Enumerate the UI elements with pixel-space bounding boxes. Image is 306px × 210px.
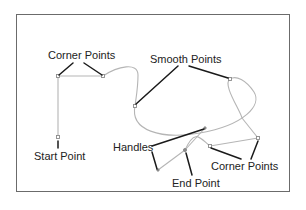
bezier-path-diagram <box>0 0 306 210</box>
label-corner-points-bottom: Corner Points <box>211 160 278 172</box>
path-curve-1 <box>103 67 138 106</box>
path-curve-loop <box>134 78 255 136</box>
path-segment-corner <box>210 138 258 146</box>
label-corner-points-top: Corner Points <box>48 49 115 61</box>
leader-corner-bottom-left <box>211 148 241 159</box>
leader-handles-lower <box>152 152 157 169</box>
path-curve-end <box>185 137 210 150</box>
smooth-point-anchor-1 <box>134 105 137 108</box>
leader-corner-bottom-right <box>251 141 258 159</box>
corner-point-anchor-4 <box>209 145 212 148</box>
leader-smooth-right <box>189 66 228 78</box>
leader-corner-top-left <box>59 63 73 75</box>
smooth-point-anchor-2 <box>229 78 232 81</box>
start-point-anchor <box>57 136 60 139</box>
leader-lines <box>58 63 258 175</box>
label-end-point: End Point <box>172 177 220 189</box>
label-handles: Handles <box>113 141 153 153</box>
leader-end-point <box>186 153 192 175</box>
leader-corner-top-right <box>84 63 102 75</box>
label-start-point: Start Point <box>34 150 85 162</box>
label-smooth-points: Smooth Points <box>150 53 222 65</box>
corner-point-anchor-3 <box>257 137 260 140</box>
handle-line-lower <box>158 150 185 170</box>
path-segment-right <box>242 118 258 138</box>
end-point-anchor <box>183 148 186 151</box>
leader-smooth-left <box>136 66 178 104</box>
